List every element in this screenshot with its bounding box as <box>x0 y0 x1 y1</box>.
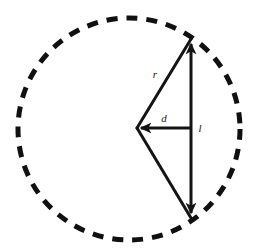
distance-label: d <box>161 112 167 124</box>
geometry-canvas: r d l <box>0 0 256 252</box>
chord-geometry-figure: r d l <box>0 0 256 252</box>
radius-label: r <box>153 68 158 80</box>
figure-background <box>0 0 256 252</box>
chord-label: l <box>198 122 201 134</box>
